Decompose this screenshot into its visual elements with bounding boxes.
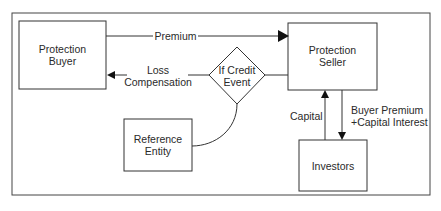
capital-arrowhead-icon bbox=[321, 90, 329, 98]
credit-event-label: If Credit Event bbox=[209, 64, 265, 88]
protection-buyer-label: Protection Buyer bbox=[19, 43, 106, 67]
protection-buyer-line1: Protection bbox=[19, 43, 106, 55]
loss-arrowhead-icon bbox=[107, 71, 115, 79]
credit-event-line1: If Credit bbox=[209, 64, 265, 76]
premium-arrowhead-icon bbox=[278, 30, 289, 42]
investors-label: Investors bbox=[299, 160, 367, 172]
protection-seller-label: Protection Seller bbox=[288, 44, 377, 68]
loss-compensation-line2: Compensation bbox=[122, 76, 194, 88]
buyer-premium-label: Buyer Premium +Capital Interest bbox=[351, 104, 428, 128]
protection-seller-line1: Protection bbox=[288, 44, 377, 56]
buyer-premium-line1: Buyer Premium bbox=[351, 104, 428, 116]
loss-compensation-line1: Loss bbox=[122, 64, 194, 76]
protection-buyer-line2: Buyer bbox=[19, 55, 106, 67]
reference-entity-label: Reference Entity bbox=[124, 133, 192, 157]
reference-entity-line2: Entity bbox=[124, 145, 192, 157]
premium-label: Premium bbox=[153, 30, 198, 42]
loss-compensation-label: Loss Compensation bbox=[122, 64, 194, 88]
credit-event-line2: Event bbox=[209, 76, 265, 88]
buyer-premium-line2: +Capital Interest bbox=[351, 116, 428, 128]
buyer-premium-arrowhead-icon bbox=[338, 132, 346, 140]
investors-line1: Investors bbox=[299, 160, 367, 172]
reference-entity-line1: Reference bbox=[124, 133, 192, 145]
protection-seller-line2: Seller bbox=[288, 56, 377, 68]
capital-label: Capital bbox=[290, 110, 323, 122]
reference-curve bbox=[192, 104, 237, 146]
